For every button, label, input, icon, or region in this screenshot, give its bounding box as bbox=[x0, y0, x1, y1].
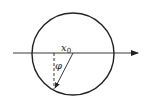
angle-label-phi: φ bbox=[55, 60, 62, 71]
point-label-subscript: 0 bbox=[67, 47, 71, 55]
diagram-canvas: x0 φ bbox=[0, 0, 149, 105]
circle bbox=[32, 13, 114, 95]
